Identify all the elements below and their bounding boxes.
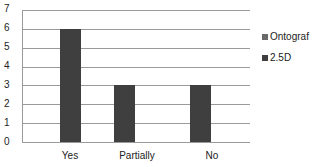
- y-tick-1: 1: [4, 117, 14, 128]
- gridline: [22, 29, 250, 30]
- bar-yes: [60, 29, 81, 142]
- gridline: [22, 123, 250, 124]
- bar-no: [190, 85, 211, 142]
- y-tick-6: 6: [4, 22, 14, 33]
- y-tick-4: 4: [4, 60, 14, 71]
- bar-partially: [114, 85, 135, 142]
- y-tick-3: 3: [4, 79, 14, 90]
- y-tick-5: 5: [4, 41, 14, 52]
- legend-label: Ontograf: [270, 31, 309, 42]
- x-label-partially: Partially: [107, 150, 167, 161]
- gridline: [22, 104, 250, 105]
- gridline: [22, 85, 250, 86]
- legend-swatch-icon: [262, 34, 268, 40]
- y-tick-0: 0: [4, 136, 14, 147]
- gridline: [22, 67, 250, 68]
- x-label-yes: Yes: [40, 150, 100, 161]
- y-tick-2: 2: [4, 98, 14, 109]
- x-label-no: No: [182, 150, 242, 161]
- legend-item-2-5d: 2.5D: [262, 52, 291, 63]
- legend-swatch-icon: [262, 55, 268, 61]
- x-axis-line: [22, 142, 250, 143]
- legend-label: 2.5D: [270, 52, 291, 63]
- legend-item-ontograf: Ontograf: [262, 31, 309, 42]
- gridline: [22, 10, 250, 11]
- gridline: [22, 48, 250, 49]
- y-tick-7: 7: [4, 3, 14, 14]
